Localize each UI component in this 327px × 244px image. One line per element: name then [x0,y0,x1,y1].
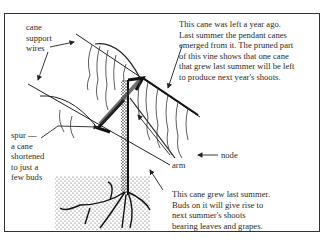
soil [55,176,150,230]
label-bottom-note: This cane grew last summer. Buds on it w… [172,189,270,231]
label-top-note: This cane was left a year ago. Last summ… [179,19,295,83]
label-node: node [221,150,238,161]
upper-cane [143,78,198,115]
label-spur: spur — a cane shortened to just a few bu… [11,130,44,183]
label-arm: arm [172,160,185,171]
label-support-wires: cane support wires [26,22,52,54]
